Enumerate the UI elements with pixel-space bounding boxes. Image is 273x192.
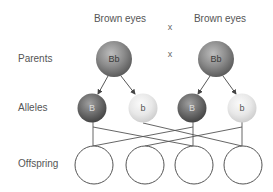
offspring-circle-4 <box>224 146 262 184</box>
parent-1: Bb <box>96 41 132 77</box>
allele-recessive-2: b <box>228 94 257 123</box>
row-label-alleles: Alleles <box>18 102 47 113</box>
allele-label: b <box>140 103 145 113</box>
row-label-offspring: Offspring <box>18 158 58 169</box>
phenotype-label-parent-1: Brown eyes <box>94 13 146 24</box>
row-label-parents: Parents <box>18 53 52 64</box>
offspring-circle-1 <box>75 146 113 184</box>
allele-dominant-1: B <box>78 94 107 123</box>
phenotype-label-parent-2: Brown eyes <box>194 13 246 24</box>
allele-to-offspring-lines <box>93 122 242 146</box>
punnett-inheritance-diagram: Brown eyes Brown eyes x x Parents Allele… <box>0 0 273 192</box>
allele-recessive-1: b <box>129 94 158 123</box>
offspring-circle-2 <box>126 146 164 184</box>
cross-symbol-genotype: x <box>168 49 173 59</box>
offspring-row <box>75 146 262 184</box>
allele-dominant-2: B <box>178 94 207 123</box>
parent-2: Bb <box>198 41 234 77</box>
allele-label: b <box>239 103 244 113</box>
allele-label: B <box>89 103 95 113</box>
offspring-circle-3 <box>175 146 213 184</box>
parent-genotype: Bb <box>210 54 221 64</box>
parent-genotype: Bb <box>108 54 119 64</box>
allele-label: B <box>189 103 195 113</box>
parent-to-allele-arrows <box>98 76 236 94</box>
cross-symbol-phenotype: x <box>168 22 173 32</box>
